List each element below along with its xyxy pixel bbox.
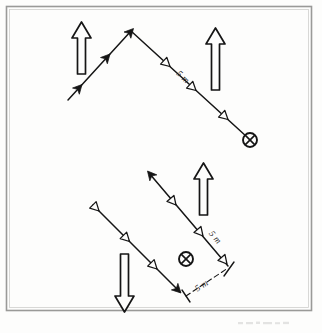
upper-diagram: 5 m <box>68 22 257 147</box>
block-arrow-down <box>115 254 134 312</box>
into-page-icon <box>243 133 257 147</box>
scan-artifacts <box>238 322 289 325</box>
block-arrow-up-right <box>206 28 225 90</box>
lower-baseline-length-label: 5 m <box>193 277 210 293</box>
figure-frame <box>7 7 312 311</box>
block-arrow-up-lower <box>194 163 213 215</box>
baseline-dimension <box>182 262 234 302</box>
ray-diagram-svg: 5 m <box>0 0 322 333</box>
upper-segment-length-label: 5 m <box>175 68 192 85</box>
lower-diagram: 5 m <box>90 163 234 312</box>
upper-outgoing-ray <box>131 31 247 137</box>
into-page-icon <box>179 252 193 266</box>
lower-lower-diagonal <box>90 202 185 297</box>
block-arrow-up-left <box>72 22 91 74</box>
figure-frame-inner <box>10 10 309 308</box>
figure-canvas: 5 m <box>0 0 322 333</box>
